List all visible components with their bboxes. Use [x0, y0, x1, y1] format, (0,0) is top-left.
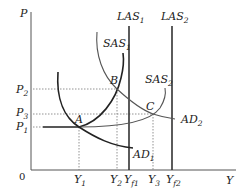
y2-label: Y2 [110, 173, 122, 188]
ad2-label: AD2 [180, 113, 203, 128]
p2-label: P2 [15, 83, 28, 98]
sas1-curve [43, 53, 124, 127]
guide-p3 [33, 114, 153, 170]
point-c-label: C [146, 100, 155, 113]
ad1-label: AD1 [132, 148, 155, 163]
las1-label: LAS1 [116, 10, 145, 25]
sas2-label: SAS2 [145, 73, 173, 88]
origin-label: 0 [19, 171, 25, 182]
p3-label: P3 [15, 106, 28, 121]
y3-label: Y3 [148, 173, 160, 188]
point-b-label: B [109, 74, 118, 87]
p1-label: P1 [15, 120, 28, 135]
yf2-label: Yf2 [166, 173, 181, 188]
point-a-label: A [74, 113, 83, 126]
yf1-label: Yf1 [124, 173, 139, 188]
guide-p2 [33, 89, 117, 170]
x-axis-label: Y [226, 174, 235, 187]
ad1-curve [58, 72, 133, 148]
sas1-label: SAS1 [103, 37, 131, 52]
ad-as-diagram: P Y 0 P2 P3 P1 Y1 Y2 Yf1 Y3 Yf2 LAS1 LAS… [0, 0, 245, 194]
y1-label: Y1 [74, 173, 86, 188]
y-axis-label: P [19, 7, 28, 20]
las2-label: LAS2 [160, 10, 189, 25]
